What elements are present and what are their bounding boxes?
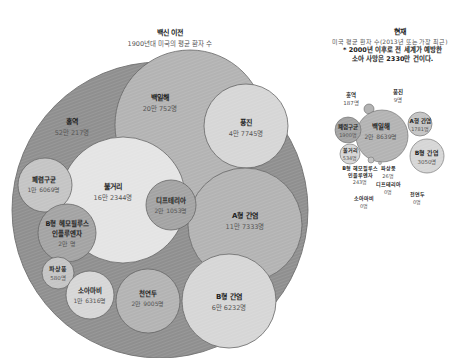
bubble-value: 2만 8639명 — [365, 133, 398, 140]
bubble-label: 폐렴구균 — [338, 123, 358, 131]
bubble-label: B형 헤모필루스 — [45, 219, 88, 228]
bubble-value: 2만 9005명 — [132, 300, 165, 307]
bubble-value: 0명 — [413, 199, 421, 205]
bubble-tetanus-now: 파상풍 26명 — [379, 162, 396, 180]
bubble-smallpox: 천연두 2만 9005명 — [116, 269, 180, 333]
bubble-value: 534명 — [343, 155, 358, 161]
bubble-label: 백일해 — [151, 93, 169, 102]
bubble-hepatitis-b: B형 간염 6만 6232명 — [182, 254, 276, 348]
bubble-label: 풍진 — [240, 118, 252, 127]
bubble-label: 홍역 — [346, 91, 356, 99]
bubble-label: 소아마비 — [78, 286, 102, 295]
bubble-label: B형 헤모필루스 — [342, 165, 378, 172]
bubble-label-2: 인플루엔자 — [348, 172, 373, 179]
bubble-pertussis-now: 백일해 2만 8639명 — [356, 110, 408, 162]
bubble-label: A형 간염 — [232, 211, 258, 220]
bubble-value: 11만 7333명 — [226, 222, 265, 231]
bubble-rubella: 풍진 4만 7745명 — [204, 84, 288, 168]
bubble-value: 1900명 — [339, 132, 357, 138]
bubble-value: 2만 명 — [58, 240, 76, 247]
bubble-value: 243명 — [353, 179, 368, 185]
bubble-label: 백일해 — [372, 122, 390, 131]
bubble-polio: 소아마비 1만 6316명 — [66, 271, 114, 319]
bubble-value: 0명 — [384, 189, 392, 195]
bubble-label: 디프테리아 — [156, 196, 186, 205]
bubble-label: 천연두 — [410, 191, 425, 198]
bubble-value: 4만 7745명 — [229, 129, 264, 138]
bubble-mumps-now: 불거리 534명 — [340, 144, 360, 164]
bubble-label: 파상풍 — [381, 165, 396, 172]
bubble-value: 1만 6316명 — [74, 297, 107, 304]
bubble-value: 52만 217명 — [55, 128, 90, 137]
bubble-label: B형 간염 — [216, 292, 242, 301]
bubble-value: 9명 — [394, 97, 403, 103]
bubble-label: 풍진 — [393, 88, 403, 96]
bubble-value: 2만 1053명 — [155, 207, 188, 214]
bubble-value: 6만 6232명 — [212, 303, 247, 312]
bubble-value: 3050명 — [418, 159, 437, 165]
bubble-value: 0명 — [360, 203, 368, 209]
left-bubble-chart: 홍역 52만 217명 백일해 20만 752명 풍진 4만 7745명 A형 … — [12, 50, 308, 358]
bubble-label: 파상풍 — [49, 265, 67, 273]
bubble-value: 580명 — [50, 275, 66, 281]
bubble-label: 천연두 — [139, 289, 157, 298]
bubble-diphtheria: 디프테리아 2만 1053명 — [146, 180, 196, 230]
bubble-value: 16만 2344명 — [94, 193, 133, 202]
bubble-value: 187명 — [343, 100, 359, 106]
bubble-label: 불거리 — [343, 147, 358, 154]
bubble-hepatitis-b-now: B형 간염 3050명 — [410, 139, 444, 173]
bubble-label: 불거리 — [104, 182, 122, 191]
bubble-label: 홍역 — [66, 117, 78, 126]
bubble-label: B형 간염 — [415, 149, 440, 157]
bubble-label: 폐렴구균 — [32, 175, 56, 184]
bubble-hib: B형 헤모필루스 인플루엔자 2만 명 — [38, 204, 96, 262]
bubble-label: 디프테리아 — [376, 181, 401, 188]
bubble-hepatitis-a-now: A형 간염 1781명 — [408, 112, 432, 136]
bubble-value: 1781명 — [411, 126, 429, 132]
bubble-label-2: 인플루엔자 — [52, 229, 82, 238]
bubble-pneumococcal-now: 폐렴구균 1900명 — [335, 117, 361, 143]
right-bubble-chart: 홍역 187명 풍진 9명 백일해 2만 8639명 폐렴구균 1900명 A형… — [335, 88, 444, 209]
bubble-value: 20만 752명 — [143, 104, 178, 113]
bubble-value: 26명 — [382, 173, 393, 179]
bubble-charts: 홍역 52만 217명 백일해 20만 752명 풍진 4만 7745명 A형 … — [0, 0, 470, 358]
bubble-label: 소아마비 — [354, 195, 374, 202]
bubble-label: A형 간염 — [409, 117, 430, 125]
bubble-value: 1만 6069명 — [28, 186, 61, 193]
